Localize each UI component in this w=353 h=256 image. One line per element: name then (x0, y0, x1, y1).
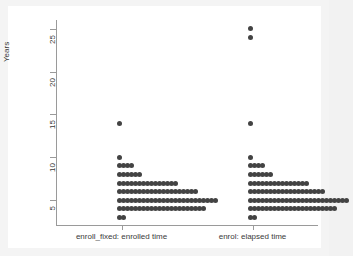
dot-stack-row (117, 206, 210, 211)
data-point (117, 121, 122, 126)
dot-stack-row (248, 35, 257, 40)
x-axis-tick-label: enroll_fixed: enrolled time (76, 232, 167, 241)
x-axis-tick (122, 226, 123, 230)
data-point (201, 206, 206, 211)
dot-stack-row (248, 206, 341, 211)
dot-stack-row (248, 121, 257, 126)
data-point (248, 155, 253, 160)
data-point (173, 181, 178, 186)
data-point (268, 172, 273, 177)
data-point (332, 206, 337, 211)
data-point (304, 181, 309, 186)
dot-stack-row (248, 26, 257, 31)
dot-stack-row (117, 198, 222, 203)
dot-stack-row (248, 181, 313, 186)
dot-stack-row (248, 215, 261, 220)
data-point (117, 155, 122, 160)
dot-stack-row (248, 155, 257, 160)
data-point (121, 215, 126, 220)
data-point (248, 35, 253, 40)
dot-stack-row (248, 172, 277, 177)
dot-stack-row (248, 189, 329, 194)
graph-canvas: Years 510152025 enroll_fixed: enrolled t… (8, 6, 321, 248)
y-axis-title: Years (2, 0, 11, 62)
data-point (193, 189, 198, 194)
data-point (129, 163, 134, 168)
dot-stack-row (117, 121, 126, 126)
x-axis-tick (253, 226, 254, 230)
dot-stack-row (117, 163, 138, 168)
data-point (213, 198, 218, 203)
dot-stack-row (117, 172, 146, 177)
data-point (137, 172, 142, 177)
data-point (320, 189, 325, 194)
data-point (260, 163, 265, 168)
plot-region (56, 20, 318, 226)
dot-stack-row (248, 198, 353, 203)
dot-stack-row (248, 163, 269, 168)
x-axis-tick-label: enrol: elapsed time (219, 232, 287, 241)
data-point (252, 215, 257, 220)
data-point (344, 198, 349, 203)
dot-stack-row (117, 181, 182, 186)
dot-stack-row (117, 215, 130, 220)
data-point (248, 121, 253, 126)
dot-stack-row (117, 155, 126, 160)
data-point (248, 26, 253, 31)
dot-stack-row (117, 189, 202, 194)
